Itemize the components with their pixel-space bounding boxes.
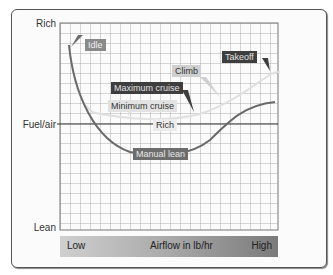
x-label-low: Low — [67, 240, 85, 251]
x-axis-bar: Low Airflow in lb/hr High — [60, 236, 278, 257]
label-minimum-cruise: Minimum cruise — [108, 100, 177, 112]
label-climb: Climb — [172, 65, 201, 77]
x-label-high: High — [251, 240, 272, 251]
label-manual-lean: Manual lean — [133, 148, 188, 160]
label-takeoff: Takeoff — [222, 51, 257, 63]
label-rich: Rich — [153, 119, 177, 131]
label-idle: Idle — [85, 39, 106, 51]
label-maximum-cruise: Maximum cruise — [111, 82, 183, 94]
x-axis-title: Airflow in lb/hr — [150, 240, 213, 251]
mixture-chart — [0, 0, 333, 275]
